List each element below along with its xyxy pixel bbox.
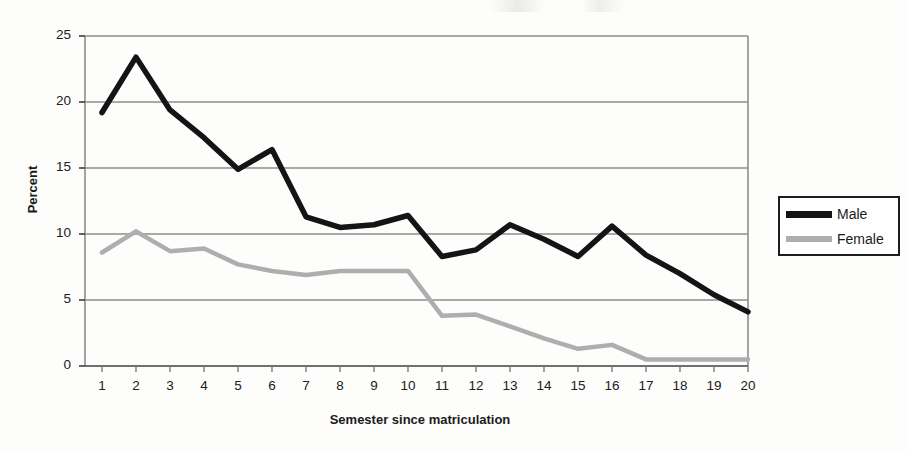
x-tick-label: 4	[189, 378, 219, 393]
x-tick-label: 17	[631, 378, 661, 393]
x-tick-label: 16	[597, 378, 627, 393]
x-tick-label: 2	[121, 378, 151, 393]
x-tick-label: 5	[223, 378, 253, 393]
x-tick-label: 8	[325, 378, 355, 393]
legend-item-female: Female	[786, 227, 884, 251]
x-tick-label: 13	[495, 378, 525, 393]
y-tick-label: 25	[37, 27, 71, 42]
x-tick-label: 3	[155, 378, 185, 393]
legend-item-male: Male	[786, 202, 867, 226]
legend-line-female-icon	[786, 236, 832, 242]
x-tick-label: 18	[665, 378, 695, 393]
chart-legend: Male Female	[778, 196, 900, 256]
legend-label-female: Female	[837, 232, 884, 246]
x-tick-label: 14	[529, 378, 559, 393]
y-tick-label: 0	[37, 357, 71, 372]
x-tick-label: 19	[699, 378, 729, 393]
legend-label-male: Male	[837, 207, 867, 221]
series-line-male	[102, 57, 748, 312]
y-tick-label: 20	[37, 93, 71, 108]
x-tick-label: 10	[393, 378, 423, 393]
series-line-female	[102, 231, 748, 359]
x-tick-label: 9	[359, 378, 389, 393]
y-tick-label: 10	[37, 225, 71, 240]
x-tick-label: 15	[563, 378, 593, 393]
x-tick-label: 7	[291, 378, 321, 393]
x-tick-label: 20	[733, 378, 763, 393]
chart-figure: Percent Semester since matriculation 051…	[0, 0, 908, 452]
y-tick-label: 5	[37, 291, 71, 306]
legend-line-male-icon	[786, 211, 832, 218]
x-tick-label: 6	[257, 378, 287, 393]
x-tick-label: 12	[461, 378, 491, 393]
x-tick-label: 1	[87, 378, 117, 393]
x-tick-label: 11	[427, 378, 457, 393]
x-axis-title: Semester since matriculation	[270, 412, 570, 427]
y-tick-label: 15	[37, 159, 71, 174]
